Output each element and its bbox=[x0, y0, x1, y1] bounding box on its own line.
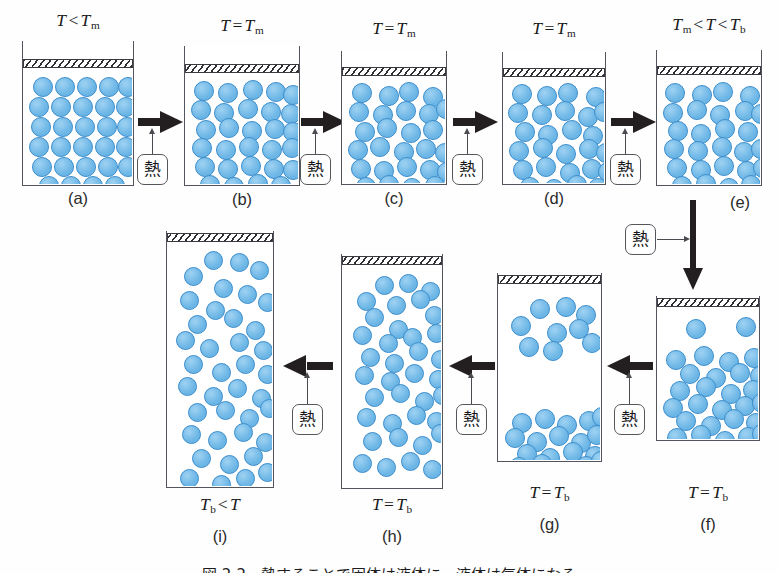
lid-h bbox=[342, 256, 442, 265]
particle bbox=[664, 139, 684, 159]
temp-label-c: T=Tm bbox=[336, 18, 452, 39]
temp-a-rhs: T bbox=[81, 10, 91, 30]
particle bbox=[715, 119, 735, 139]
heat-feeder-head-e-to-f bbox=[684, 236, 690, 242]
particle bbox=[387, 296, 406, 315]
particle bbox=[236, 355, 255, 374]
particle bbox=[667, 158, 687, 178]
heat-box-f-to-g: 熱 bbox=[614, 404, 645, 435]
particle bbox=[385, 354, 404, 373]
arrow-shaft bbox=[611, 118, 635, 125]
temp-e-lhs: T bbox=[672, 14, 682, 34]
particles-h bbox=[343, 266, 441, 487]
temp-e-mid: T bbox=[706, 14, 716, 34]
temp-d-lhs: T bbox=[532, 18, 542, 38]
particle bbox=[224, 309, 243, 328]
particle bbox=[216, 140, 236, 160]
temp-h-rhs: T bbox=[396, 494, 406, 514]
particle bbox=[265, 119, 285, 139]
particle bbox=[587, 425, 600, 445]
particle bbox=[76, 157, 96, 177]
particle bbox=[241, 156, 261, 176]
particle bbox=[562, 120, 582, 140]
arrow-shaft bbox=[471, 362, 495, 369]
heat-box-g-to-h: 熱 bbox=[456, 404, 487, 435]
temp-i-lhs: T bbox=[200, 494, 210, 514]
temp-b-lhs: T bbox=[220, 15, 230, 35]
particle bbox=[353, 454, 372, 473]
particle bbox=[427, 324, 441, 343]
particle bbox=[219, 118, 239, 138]
particle bbox=[254, 341, 272, 360]
particle bbox=[97, 117, 117, 137]
particle bbox=[409, 342, 428, 361]
particle bbox=[29, 137, 49, 157]
particle bbox=[379, 334, 398, 353]
particle bbox=[180, 291, 199, 310]
particle bbox=[283, 85, 298, 105]
particle bbox=[98, 157, 118, 177]
particle bbox=[536, 157, 556, 177]
temp-i-op: < bbox=[216, 494, 230, 514]
particles-e bbox=[658, 76, 760, 184]
particle bbox=[402, 178, 422, 183]
temp-d-rhs-sub: m bbox=[567, 27, 576, 39]
particle bbox=[32, 157, 52, 177]
particle bbox=[184, 355, 203, 374]
particle bbox=[668, 121, 688, 141]
panel-g bbox=[497, 273, 602, 462]
particle bbox=[416, 139, 436, 159]
particle bbox=[118, 157, 132, 177]
particle bbox=[234, 423, 253, 442]
temp-i-rhs: T bbox=[230, 494, 240, 514]
particle bbox=[379, 175, 399, 183]
particle bbox=[512, 84, 532, 104]
panel-b bbox=[184, 46, 300, 186]
temp-label-b: T=Tm bbox=[184, 15, 300, 36]
heat-box-a-to-b: 熱 bbox=[137, 154, 168, 185]
particle bbox=[405, 364, 424, 383]
figure-caption: 図 2-2 熱することで固体は液体に、液体は気体になる bbox=[0, 563, 778, 573]
particle bbox=[116, 137, 132, 157]
arrow-shaft bbox=[629, 362, 653, 369]
temp-f-lhs: T bbox=[688, 482, 698, 502]
particle bbox=[250, 261, 269, 280]
particle bbox=[348, 140, 368, 160]
particle bbox=[230, 253, 249, 272]
particle bbox=[33, 77, 53, 97]
particle bbox=[218, 83, 238, 103]
lid-a bbox=[23, 59, 133, 68]
particle bbox=[433, 386, 441, 405]
particle bbox=[243, 80, 263, 100]
particle bbox=[567, 175, 587, 183]
particle bbox=[696, 174, 716, 184]
particle bbox=[519, 337, 539, 357]
temp-a-lhs: T bbox=[56, 10, 66, 30]
particle bbox=[188, 315, 207, 334]
particle bbox=[188, 403, 207, 422]
particle bbox=[200, 339, 219, 358]
heat-feeder-head-a-to-b bbox=[149, 128, 155, 134]
particle bbox=[117, 117, 132, 137]
particle bbox=[537, 86, 557, 106]
particle bbox=[423, 120, 443, 140]
heat-feeder-d-to-e bbox=[625, 132, 626, 154]
particle bbox=[363, 432, 382, 451]
particle bbox=[555, 101, 575, 121]
particles-f bbox=[658, 308, 758, 439]
particle bbox=[224, 177, 244, 184]
particle bbox=[423, 460, 441, 479]
heat-feeder-g-to-h bbox=[471, 376, 472, 404]
heat-feeder-head-g-to-h bbox=[468, 372, 474, 378]
lid-f bbox=[657, 298, 759, 307]
particle bbox=[715, 431, 735, 439]
particle bbox=[365, 308, 384, 327]
particle bbox=[401, 452, 420, 471]
temp-a-rhs-sub: m bbox=[91, 19, 100, 31]
particle bbox=[738, 122, 758, 142]
particle bbox=[389, 428, 408, 447]
temp-f-rhs-sub: b bbox=[722, 491, 728, 503]
panel-label-b: (b) bbox=[184, 190, 300, 209]
temp-e-rhs-sub: b bbox=[740, 23, 746, 35]
arrow-shaft bbox=[301, 118, 325, 125]
